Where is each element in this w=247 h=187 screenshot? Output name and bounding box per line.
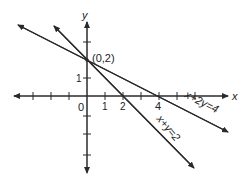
line-label-x-plus-y: x+y=2 <box>154 112 183 143</box>
point-label: (0,2) <box>92 52 115 64</box>
y-tick-label-1: 1 <box>76 73 82 84</box>
coordinate-diagram: x y 0 1 2 4 1 x+2y=4 x+y=2 (0,2) <box>0 0 247 187</box>
x-tick-label-1: 1 <box>102 101 108 112</box>
origin-label: 0 <box>78 101 84 113</box>
x-tick-label-4: 4 <box>155 100 161 112</box>
x-axis-label: x <box>231 90 238 102</box>
line-x-plus-2y-eq-4: x+2y=4 <box>18 25 228 132</box>
x-tick-label-2: 2 <box>120 101 126 112</box>
y-axis-label: y <box>81 9 89 21</box>
line-x-plus-y-eq-2: x+y=2 <box>54 26 194 168</box>
y-axis: y <box>81 9 91 173</box>
